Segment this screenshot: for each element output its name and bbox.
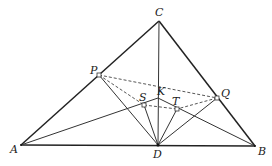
right-angle-mark-Q xyxy=(215,96,219,100)
segment-SD xyxy=(144,105,158,145)
label-Q: Q xyxy=(221,87,230,100)
right-angle-mark-P xyxy=(97,73,101,77)
segment-PD xyxy=(99,75,158,145)
segment-TD xyxy=(158,109,177,145)
segment-CD xyxy=(158,21,159,145)
label-C: C xyxy=(155,6,164,19)
label-B: B xyxy=(257,145,266,158)
label-D: D xyxy=(152,148,162,161)
segment-AK xyxy=(21,98,158,145)
point-A-dot xyxy=(20,144,22,146)
label-T: T xyxy=(172,95,181,108)
point-B-dot xyxy=(254,145,256,147)
segment-QD xyxy=(158,98,217,145)
label-S: S xyxy=(139,91,147,104)
point-D-dot xyxy=(156,143,159,146)
label-K: K xyxy=(156,85,166,98)
segment-QT xyxy=(177,98,217,109)
geometry-diagram: C A B D P Q K S T xyxy=(0,0,272,166)
label-P: P xyxy=(89,64,98,77)
label-A: A xyxy=(9,143,18,156)
segment-AB xyxy=(21,145,255,146)
segment-BC xyxy=(159,21,255,146)
